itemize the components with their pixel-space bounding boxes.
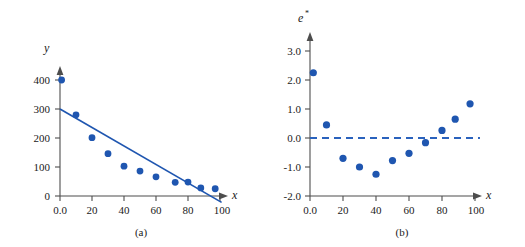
panel-a-xtick-80: 80 xyxy=(183,204,195,216)
data-point xyxy=(58,77,65,84)
panel-a-y-ticks xyxy=(55,80,60,196)
data-point xyxy=(137,168,144,175)
data-point xyxy=(121,163,128,170)
data-point xyxy=(452,116,459,123)
data-point xyxy=(185,179,192,186)
data-point xyxy=(422,139,429,146)
data-point xyxy=(197,184,204,191)
panel-a-ytick-100: 100 xyxy=(34,161,51,173)
panel-a-xtick-40: 40 xyxy=(119,204,131,216)
panel-b-xtick-100: 100 xyxy=(468,204,485,216)
panel-b-ytick-0: 0.0 xyxy=(287,132,301,144)
panel-b-ytick-neg1: -1.0 xyxy=(284,161,302,173)
panel-b-ytick-2: 2.0 xyxy=(287,74,301,86)
panel-a-xtick-20: 20 xyxy=(87,204,99,216)
data-point xyxy=(372,171,379,178)
panel-b-y-axis-label: e xyxy=(298,11,304,25)
data-point xyxy=(172,179,179,186)
panel-a-y-axis-arrow xyxy=(57,66,64,75)
data-point xyxy=(466,100,473,107)
panel-a-xtick-100: 100 xyxy=(214,204,231,216)
panel-a-caption: (a) xyxy=(135,226,148,239)
data-point xyxy=(73,111,80,118)
panel-b-plot: e * x -2.0 -1.0 0.0 1.0 2.0 3.0 xyxy=(262,0,525,247)
data-point xyxy=(438,127,445,134)
panel-a-regression-line xyxy=(60,109,222,202)
data-point xyxy=(153,173,160,180)
panel-b-y-ticks xyxy=(305,51,310,196)
panel-a-x-axis-label: x xyxy=(231,188,238,202)
data-point xyxy=(356,163,363,170)
data-point xyxy=(212,185,219,192)
panel-a-ytick-200: 200 xyxy=(34,132,51,144)
data-point xyxy=(323,121,330,128)
panel-a-ytick-0: 0 xyxy=(45,190,51,202)
panel-b-xtick-80: 80 xyxy=(437,204,449,216)
panel-a-xtick-60: 60 xyxy=(151,204,163,216)
data-point xyxy=(405,150,412,157)
panel-a: y x 0 100 200 300 400 xyxy=(0,0,262,247)
panel-b-x-axis-arrow xyxy=(473,193,482,200)
panel-a-y-axis-label: y xyxy=(43,41,50,55)
panel-a-x-ticks xyxy=(60,196,220,201)
panel-b-ytick-neg2: -2.0 xyxy=(284,190,302,202)
data-point xyxy=(310,69,317,76)
panel-b-x-ticks xyxy=(310,196,475,201)
data-point xyxy=(389,157,396,164)
panel-b-x-axis-label: x xyxy=(485,188,492,202)
panel-a-xtick-0: 0.0 xyxy=(53,204,67,216)
data-point xyxy=(89,134,96,141)
panel-b-xtick-40: 40 xyxy=(371,204,383,216)
panel-a-ytick-300: 300 xyxy=(34,103,51,115)
panel-b-xtick-60: 60 xyxy=(404,204,416,216)
panel-b-xtick-20: 20 xyxy=(338,204,350,216)
panel-b-ytick-1: 1.0 xyxy=(287,103,301,115)
data-point xyxy=(105,150,112,157)
panel-a-ytick-400: 400 xyxy=(34,74,51,86)
panel-b: e * x -2.0 -1.0 0.0 1.0 2.0 3.0 xyxy=(262,0,525,247)
panel-b-caption: (b) xyxy=(396,226,409,239)
figure-container: y x 0 100 200 300 400 xyxy=(0,0,525,247)
panel-b-xtick-0: 0.0 xyxy=(303,204,317,216)
panel-b-y-axis-label-superscript: * xyxy=(305,9,309,18)
panel-a-data-points xyxy=(58,77,218,193)
data-point xyxy=(339,155,346,162)
panel-b-ytick-3: 3.0 xyxy=(287,45,301,57)
panel-b-y-axis-arrow xyxy=(307,32,314,41)
panel-b-data-points xyxy=(310,69,474,178)
panel-a-plot: y x 0 100 200 300 400 xyxy=(0,0,262,247)
